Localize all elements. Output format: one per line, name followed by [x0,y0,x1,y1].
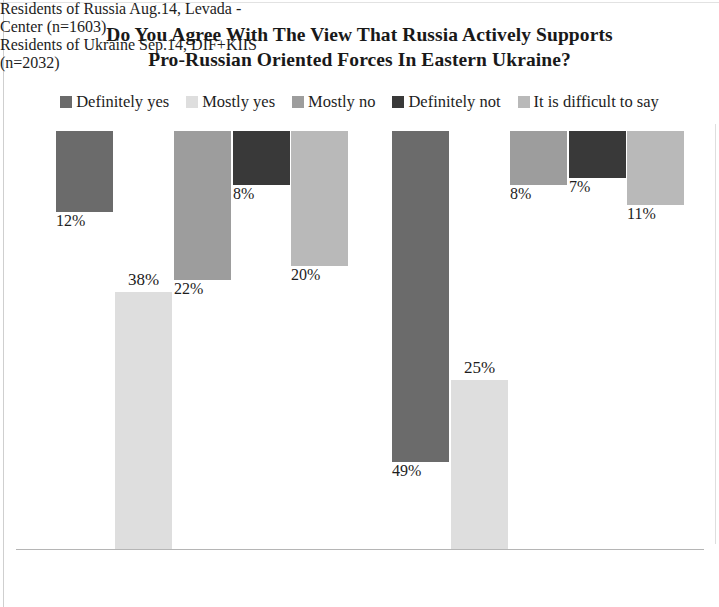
bar-value-label: 38% [103,270,184,289]
legend-item-4[interactable]: It is difficult to say [518,93,659,111]
legend-item-2[interactable]: Mostly no [292,93,375,111]
bar[interactable] [451,380,508,549]
legend-item-label: Definitely not [408,93,500,111]
bar-value-label: 22% [174,280,231,298]
bar-value-label: 7% [569,178,626,196]
bar[interactable] [291,131,348,266]
bar-slot: 11% [627,131,684,549]
bar-chart: Do You Agree With The View That Russia A… [0,0,719,607]
bar-value-label: 8% [510,185,567,203]
legend-item-label: Mostly no [308,93,375,111]
legend-item-0[interactable]: Definitely yes [60,93,169,111]
bar-group-ukraine: 49%25%8%7%11% [392,131,682,549]
bar[interactable] [392,131,449,462]
legend-item-label: It is difficult to say [534,93,659,111]
legend-item-1[interactable]: Mostly yes [186,93,275,111]
legend-swatch-icon [292,96,304,108]
legend-swatch-icon [518,96,530,108]
x-axis-line [16,549,704,550]
bar-value-label: 12% [56,212,113,230]
bar[interactable] [174,131,231,280]
bar-slot: 49% [392,131,449,549]
bar-slot: 25% [451,131,508,549]
chart-title-line-1: Do You Agree With The View That Russia A… [0,22,719,47]
legend-item-label: Definitely yes [76,93,169,111]
bar[interactable] [510,131,567,185]
bar[interactable] [627,131,684,205]
plot-area: 12%38%22%8%20% 49%25%8%7%11% [0,130,719,550]
chart-legend: Definitely yesMostly yesMostly noDefinit… [0,93,719,111]
bar-slot: 38% [115,131,172,549]
bar[interactable] [115,292,172,549]
bar-slot: 22% [174,131,231,549]
bar-value-label: 20% [291,266,348,284]
bar-slot: 20% [291,131,348,549]
legend-swatch-icon [186,96,198,108]
bar-value-label: 8% [233,185,290,203]
bar-value-label: 49% [392,462,449,480]
legend-item-label: Mostly yes [202,93,275,111]
legend-swatch-icon [392,96,404,108]
bar[interactable] [56,131,113,212]
chart-title: Do You Agree With The View That Russia A… [0,22,719,72]
bar-slot: 8% [510,131,567,549]
bar-slot: 8% [233,131,290,549]
bar[interactable] [233,131,290,185]
category-label-line: Residents of Russia Aug.14, Levada - [0,0,719,18]
bar-value-label: 11% [627,205,684,223]
bar-group-russia: 12%38%22%8%20% [56,131,346,549]
bar-value-label: 25% [439,358,520,377]
legend-item-3[interactable]: Definitely not [392,93,500,111]
bar-slot: 7% [569,131,626,549]
bar[interactable] [569,131,626,178]
chart-title-line-2: Pro-Russian Oriented Forces In Eastern U… [0,47,719,72]
legend-swatch-icon [60,96,72,108]
bar-slot: 12% [56,131,113,549]
